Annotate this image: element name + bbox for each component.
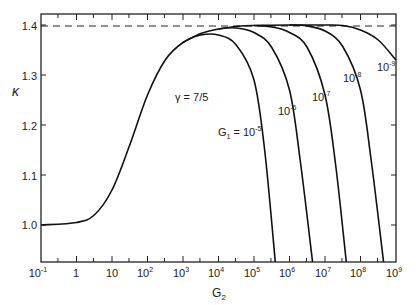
y-tick-1.3: 1.3 — [22, 70, 37, 82]
curve-8 — [254, 25, 384, 262]
y-tick-labels: 1.4 1.3 1.2 1.1 1.0 — [22, 20, 37, 231]
x-tick-1e9: 109 — [386, 266, 402, 279]
y-tick-1.1: 1.1 — [22, 170, 37, 182]
y-tick-1.4: 1.4 — [22, 20, 37, 32]
y-tick-1.0: 1.0 — [22, 219, 37, 231]
x-tick-0.1: 10-1 — [29, 266, 48, 279]
x-tick-1e4: 104 — [208, 266, 224, 279]
x-tick-1: 1 — [73, 267, 79, 279]
curve-9 — [290, 25, 397, 60]
g1-label-1e-7: 10-7 — [312, 90, 331, 103]
x-tick-1e6: 106 — [279, 266, 295, 279]
g1-label-1e-9: 10-9 — [377, 60, 396, 73]
x-tick-labels: 10-1 1 10 102 103 104 105 106 107 108 10… — [29, 266, 402, 279]
chart-svg: 1.4 1.3 1.2 1.1 1.0 κ 10-1 1 10 102 103 … — [0, 0, 416, 305]
y-tick-1.2: 1.2 — [22, 120, 37, 132]
x-tick-1e5: 105 — [244, 266, 260, 279]
x-tick-1e8: 108 — [350, 266, 366, 279]
x-axis-label: G2 — [212, 286, 226, 302]
y-axis-label: κ — [12, 83, 20, 99]
x-tick-1e7: 107 — [315, 266, 331, 279]
x-tick-1e3: 103 — [173, 266, 189, 279]
curve-5 — [41, 34, 275, 262]
x-tick-1e2: 102 — [137, 266, 153, 279]
g1-label-1e-5: G1 = 10-5 — [218, 125, 262, 140]
curves — [41, 25, 396, 262]
x-tick-10: 10 — [106, 267, 118, 279]
curve-7 — [219, 25, 347, 262]
gamma-annotation: γ = 7/5 — [175, 91, 208, 103]
